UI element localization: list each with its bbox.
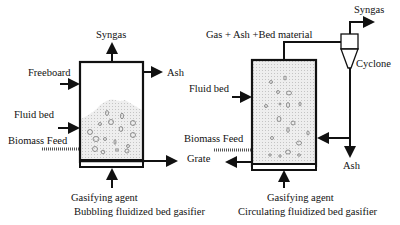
circulating-grate <box>252 164 316 170</box>
diagram-canvas <box>0 0 400 225</box>
bubbling-ash-label: Ash <box>167 68 184 79</box>
freeboard-label: Freeboard <box>28 68 71 79</box>
circulating-fluid-bed-label: Fluid bed <box>189 84 229 95</box>
grate-label: Grate <box>187 154 210 165</box>
cyclone-label: Cyclone <box>356 59 391 70</box>
bubbling-gasifying-agent-label: Gasifying agent <box>71 193 138 204</box>
circulating-gasifying-agent-label: Gasifying agent <box>267 193 334 204</box>
bubbling-fluid-bed-label: Fluid bed <box>14 110 54 121</box>
syngas-arrow-right <box>350 22 373 34</box>
circulating-caption: Circulating fluidized bed gasifier <box>238 207 377 218</box>
riser-pipe <box>284 42 341 60</box>
bubbling-biomass-feed-label: Biomass Feed <box>8 136 67 147</box>
cyclone-body <box>341 34 358 49</box>
circulating-biomass-feed-label: Biomass Feed <box>184 134 243 145</box>
circulating-ash-label: Ash <box>343 161 360 172</box>
bubbling-gasifier <box>42 44 176 188</box>
bubbling-syngas-label: Syngas <box>96 30 126 41</box>
circulating-syngas-label: Syngas <box>354 5 384 16</box>
gas-ash-bed-label: Gas + Ash +Bed material <box>206 30 312 41</box>
bubbling-caption: Bubbling fluidized bed gasifier <box>74 207 205 218</box>
